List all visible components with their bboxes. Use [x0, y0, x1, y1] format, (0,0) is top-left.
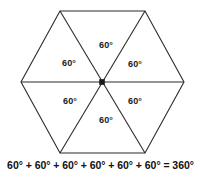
angle-label-upper-right: 60° — [128, 60, 142, 69]
hexagon-figure: 60° 60° 60° 60° 60° 60° 60° + 60° + 60° … — [0, 0, 201, 178]
angle-label-lower-right: 60° — [128, 97, 142, 106]
angle-label-top: 60° — [99, 41, 113, 50]
angle-sum-equation: 60° + 60° + 60° + 60° + 60° + 60° = 360° — [0, 159, 201, 172]
angle-label-bottom: 60° — [99, 116, 113, 125]
center-point-dot — [99, 79, 105, 85]
angle-label-upper-left: 60° — [62, 59, 76, 68]
hexagon-diagram — [0, 0, 201, 178]
angle-label-lower-left: 60° — [63, 97, 77, 106]
